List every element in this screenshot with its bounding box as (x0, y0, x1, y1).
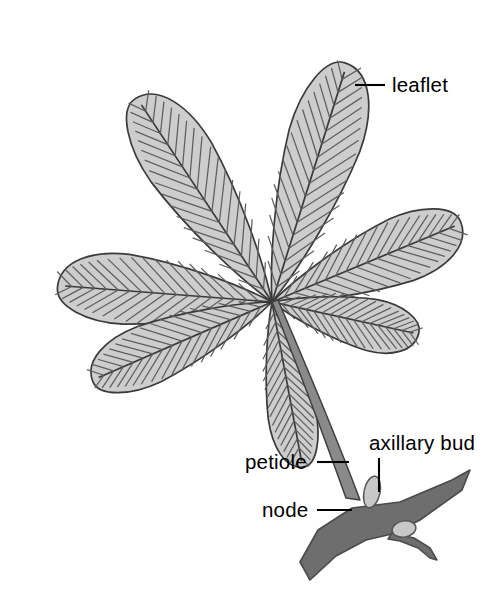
label-node: node (262, 498, 308, 521)
label-leaflet: leaflet (392, 73, 448, 96)
palmate-leaf-illustration: leafletaxillary budpetiolenode (0, 0, 501, 596)
leaf-diagram-figure: leafletaxillary budpetiolenode (0, 0, 501, 596)
label-petiole: petiole (245, 450, 307, 473)
label-axillary-bud: axillary bud (369, 431, 475, 454)
